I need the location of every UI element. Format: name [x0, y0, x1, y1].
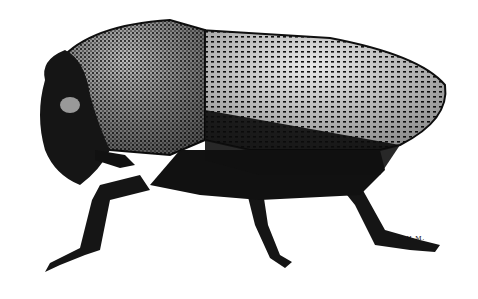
beetle-illustration	[0, 0, 478, 299]
artist-signature: C H M.	[398, 234, 425, 242]
eye	[60, 97, 80, 113]
